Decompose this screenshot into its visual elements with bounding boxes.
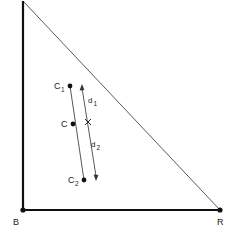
point-c-dot (71, 122, 76, 127)
label-c: C (61, 119, 68, 129)
label-c2: C (68, 175, 75, 185)
triangle-hypotenuse (23, 1, 220, 210)
geometry-diagram: C 1 C C 2 d 1 d 2 B R (0, 0, 238, 241)
label-d1: d (88, 96, 92, 105)
vertex-r-dot (217, 207, 222, 212)
label-d2: d (91, 140, 95, 149)
label-c1-subscript: 1 (61, 86, 65, 93)
chord-c1-c2 (70, 86, 84, 180)
label-vertex-b: B (13, 217, 19, 227)
point-c2-dot (82, 178, 87, 183)
label-d1-subscript: 1 (94, 100, 98, 107)
arrowhead-up-icon (80, 84, 85, 91)
label-c1: C (54, 81, 61, 91)
vertex-b-dot (20, 207, 25, 212)
figure-canvas: C 1 C C 2 d 1 d 2 B R (0, 0, 238, 241)
label-d2-subscript: 2 (97, 144, 101, 151)
point-c1-dot (68, 84, 73, 89)
arrowhead-down-icon (94, 175, 99, 182)
label-vertex-r: R (217, 217, 224, 227)
label-c2-subscript: 2 (75, 180, 79, 187)
